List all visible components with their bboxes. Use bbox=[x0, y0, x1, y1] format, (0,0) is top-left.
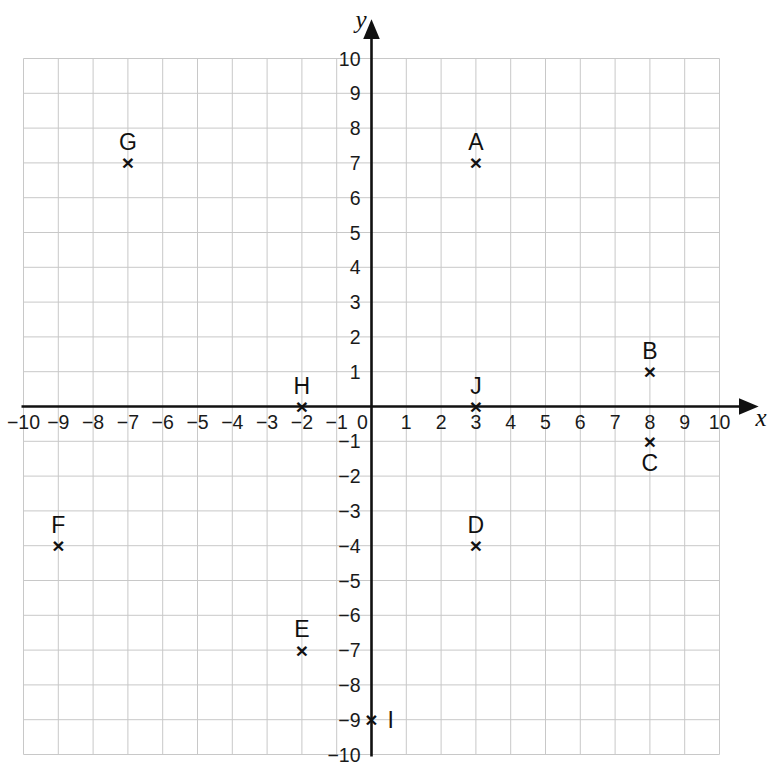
coordinate-plane: −10−9−8−7−6−5−4−3−2−1123456789100−10−9−8… bbox=[0, 0, 782, 767]
point-label: A bbox=[468, 129, 484, 155]
x-axis-label: x bbox=[754, 404, 766, 431]
y-tick-label: 8 bbox=[350, 117, 361, 139]
y-tick-label: 1 bbox=[350, 361, 361, 383]
point-label: C bbox=[642, 450, 659, 476]
y-tick-label: −1 bbox=[338, 430, 360, 452]
plotted-point: ×A bbox=[468, 129, 484, 175]
plotted-point: ×B bbox=[642, 338, 657, 384]
y-tick-label: 2 bbox=[350, 326, 361, 348]
y-tick-label: −5 bbox=[338, 570, 360, 592]
x-tick-label: 9 bbox=[679, 411, 690, 433]
x-tick-label: 5 bbox=[540, 411, 551, 433]
point-label: E bbox=[294, 616, 309, 642]
x-tick-label: 2 bbox=[436, 411, 447, 433]
x-tick-label: −9 bbox=[47, 411, 69, 433]
plotted-point: ×D bbox=[468, 512, 485, 558]
y-tick-label: −2 bbox=[338, 465, 360, 487]
y-tick-label: 6 bbox=[350, 187, 361, 209]
y-tick-label: 3 bbox=[350, 291, 361, 313]
x-tick-label: −7 bbox=[117, 411, 139, 433]
y-tick-label: −4 bbox=[338, 535, 360, 557]
y-tick-label: −8 bbox=[338, 674, 360, 696]
y-tick-label: −10 bbox=[327, 744, 360, 766]
y-tick-label: −9 bbox=[338, 709, 360, 731]
point-label: J bbox=[470, 373, 482, 399]
x-tick-label: −3 bbox=[256, 411, 278, 433]
plotted-point: ×C bbox=[642, 430, 659, 477]
x-tick-label: 10 bbox=[709, 411, 731, 433]
point-label: F bbox=[51, 512, 65, 538]
plotted-point: ×G bbox=[119, 129, 137, 175]
plotted-point: ×H bbox=[294, 373, 311, 419]
x-tick-label: −1 bbox=[326, 411, 348, 433]
y-tick-label: 7 bbox=[350, 152, 361, 174]
y-tick-label: 5 bbox=[350, 222, 361, 244]
x-tick-label: 4 bbox=[505, 411, 516, 433]
y-tick-label: 10 bbox=[339, 48, 361, 70]
coordinate-grid-figure: −10−9−8−7−6−5−4−3−2−1123456789100−10−9−8… bbox=[0, 0, 782, 767]
point-label: I bbox=[388, 707, 394, 733]
plotted-point: ×E bbox=[294, 616, 309, 662]
point-label: H bbox=[294, 373, 311, 399]
origin-label: 0 bbox=[357, 411, 368, 433]
x-tick-label: −5 bbox=[186, 411, 208, 433]
x-tick-label: −8 bbox=[82, 411, 104, 433]
point-label: B bbox=[642, 338, 657, 364]
point-label: D bbox=[468, 512, 485, 538]
y-axis-label: y bbox=[352, 6, 367, 33]
x-tick-label: 1 bbox=[401, 411, 412, 433]
point-marker-x-icon: × bbox=[365, 708, 377, 731]
y-tick-label: −7 bbox=[338, 639, 360, 661]
x-tick-label: 6 bbox=[575, 411, 586, 433]
x-tick-label: −4 bbox=[221, 411, 243, 433]
x-tick-label: 7 bbox=[610, 411, 621, 433]
y-tick-label: 4 bbox=[350, 256, 361, 278]
y-tick-label: −6 bbox=[338, 604, 360, 626]
x-tick-label: −6 bbox=[152, 411, 174, 433]
plotted-point: ×F bbox=[51, 512, 65, 558]
x-tick-label: −10 bbox=[7, 411, 40, 433]
y-tick-label: 9 bbox=[350, 82, 361, 104]
point-label: G bbox=[119, 129, 137, 155]
plotted-point: ×J bbox=[470, 373, 482, 419]
y-tick-label: −3 bbox=[338, 500, 360, 522]
